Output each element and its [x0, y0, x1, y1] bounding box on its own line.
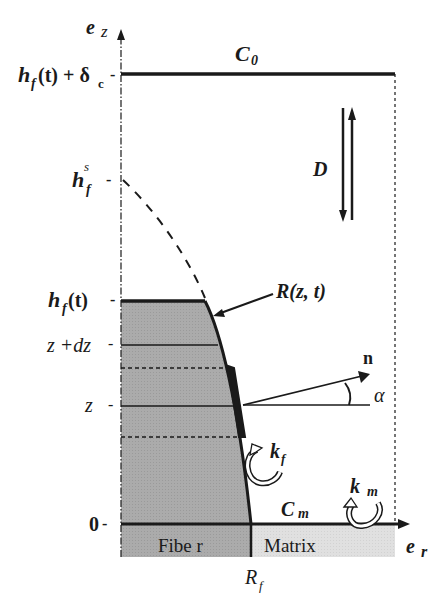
angle-label: α — [374, 384, 385, 406]
ez-arrow-icon — [117, 29, 125, 40]
svg-text:(t) + δ: (t) + δ — [38, 64, 90, 87]
svg-text:0: 0 — [251, 53, 258, 68]
equilibrium-profile — [123, 180, 205, 298]
km-label: k m — [350, 475, 378, 499]
svg-text:f: f — [281, 451, 287, 466]
svg-text:z: z — [84, 394, 93, 416]
svg-text:C: C — [281, 498, 295, 520]
diffusion-label: D — [312, 158, 327, 180]
svg-text:f: f — [31, 76, 37, 91]
svg-text:-: - — [108, 335, 113, 352]
tick-label-hfs: h f s - — [72, 159, 111, 197]
svg-text:z +dz: z +dz — [46, 334, 91, 356]
svg-text:f: f — [259, 578, 265, 593]
svg-text:-: - — [110, 66, 115, 83]
tick-label-z-plus-dz: z +dz - — [46, 334, 113, 356]
er-axis-label: e — [406, 535, 415, 557]
fiber-matrix-diagram: e z e r h f (t) + δ c - h f s - h f (t) … — [0, 0, 446, 609]
normal-label: n — [363, 348, 373, 368]
cm-label: C m — [281, 498, 309, 521]
interface-pointer — [218, 294, 273, 314]
svg-text:f: f — [86, 182, 92, 197]
er-arrow-icon — [398, 519, 410, 529]
angle-arc — [345, 383, 350, 405]
c0-label: C 0 — [235, 41, 258, 68]
km-rotation-icon — [344, 498, 380, 526]
svg-text:h: h — [18, 62, 30, 87]
svg-text:k: k — [350, 475, 360, 497]
svg-text:-: - — [108, 396, 113, 413]
matrix-label: Matrix — [264, 535, 316, 556]
svg-text:-: - — [102, 515, 107, 532]
svg-text:C: C — [235, 41, 250, 66]
svg-text:-: - — [110, 291, 115, 308]
tick-label-hft: h f (t) - — [48, 287, 115, 316]
svg-text:-: - — [106, 171, 111, 188]
diffusion-down-arrow-head — [339, 210, 347, 222]
svg-text:m: m — [367, 484, 378, 499]
svg-text:R: R — [244, 566, 257, 588]
svg-text:m: m — [298, 506, 309, 521]
svg-text:h: h — [48, 287, 60, 312]
kf-label: k f — [270, 440, 287, 466]
diffusion-up-arrow-head — [348, 107, 356, 120]
fiber-region — [121, 301, 251, 557]
fiber-label: Fibe r — [158, 535, 204, 556]
er-axis-sub: r — [421, 543, 428, 560]
svg-text:h: h — [72, 167, 84, 192]
tick-label-zero: 0 - — [89, 513, 107, 535]
svg-text:(t): (t) — [68, 289, 88, 312]
normal-vector-head — [358, 371, 370, 383]
svg-text:0: 0 — [89, 513, 99, 535]
tick-label-z: z - — [84, 394, 113, 416]
interface-pointer-head — [213, 309, 225, 317]
rf-label: R f — [244, 566, 265, 593]
tick-label-hf-plus-delta: h f (t) + δ c - — [18, 62, 115, 91]
ez-axis-label: e — [86, 16, 95, 38]
svg-text:k: k — [270, 440, 280, 462]
svg-text:s: s — [84, 159, 89, 174]
ez-axis-sub: z — [100, 22, 108, 41]
interface-label: R(z, t) — [275, 280, 326, 303]
normal-vector — [243, 376, 362, 405]
svg-text:c: c — [98, 76, 104, 91]
